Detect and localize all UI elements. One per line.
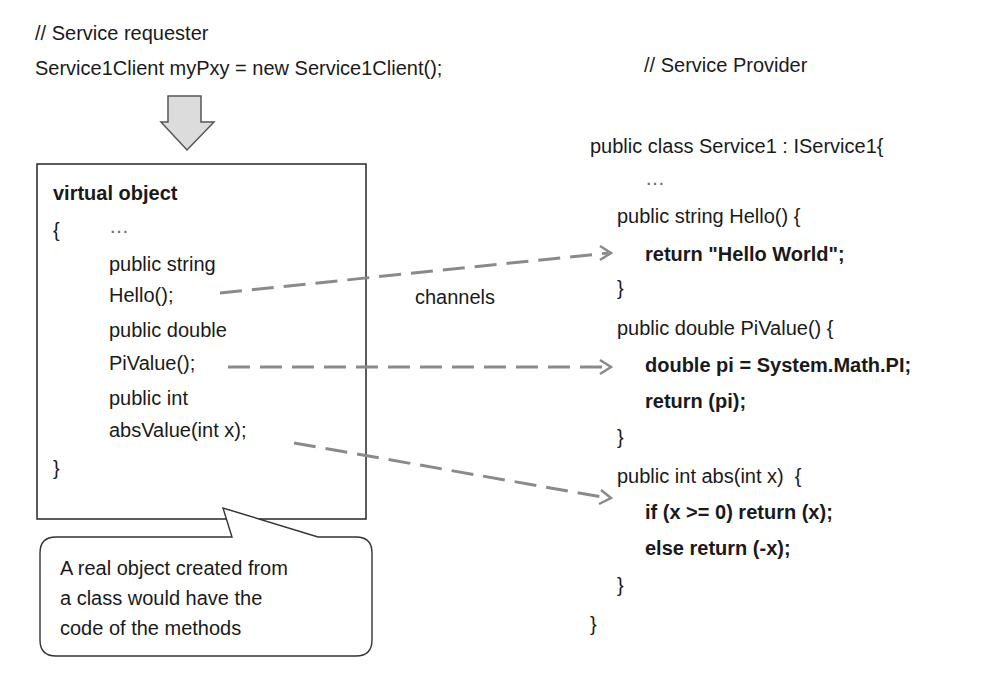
- virtual-object-open-brace: {: [53, 218, 60, 242]
- virtual-method-line: absValue(int x);: [109, 418, 246, 442]
- pivalue-method-body: return (pi);: [645, 389, 746, 413]
- callout-line: code of the methods: [60, 613, 360, 643]
- hello-method-signature: public string Hello() {: [617, 204, 800, 228]
- absvalue-arrowhead-icon: [599, 490, 611, 504]
- callout-line: a class would have the: [60, 583, 360, 613]
- hello-method-body: return "Hello World";: [645, 242, 845, 266]
- virtual-method-line: PiValue();: [109, 351, 195, 375]
- pivalue-method-close: }: [617, 425, 624, 449]
- abs-method-close: }: [617, 573, 624, 597]
- provider-class-declaration: public class Service1 : IService1{: [590, 134, 883, 158]
- virtual-object-ellipsis: …: [109, 214, 129, 238]
- abs-method-body: else return (-x);: [645, 536, 791, 560]
- virtual-method-line: public string: [109, 252, 216, 276]
- provider-comment: // Service Provider: [644, 53, 807, 77]
- virtual-method-line: public double: [109, 318, 227, 342]
- down-arrow-icon: [161, 96, 214, 150]
- pivalue-method-signature: public double PiValue() {: [617, 316, 833, 340]
- provider-ellipsis: …: [645, 166, 665, 190]
- hello-channel-arrow: [220, 253, 608, 293]
- callout-line: A real object created from: [60, 553, 360, 583]
- requester-statement: Service1Client myPxy = new Service1Clien…: [35, 56, 442, 80]
- abs-method-signature: public int abs(int x) {: [617, 464, 802, 488]
- channels-label: channels: [415, 285, 495, 309]
- provider-class-close: }: [590, 612, 597, 636]
- requester-comment: // Service requester: [35, 21, 208, 45]
- callout-text: A real object created from a class would…: [60, 553, 360, 643]
- pivalue-method-body: double pi = System.Math.PI;: [645, 353, 911, 377]
- virtual-object-close-brace: }: [53, 456, 60, 480]
- virtual-method-line: Hello();: [109, 283, 173, 307]
- virtual-method-line: public int: [109, 386, 188, 410]
- hello-method-close: }: [617, 276, 624, 300]
- abs-method-body: if (x >= 0) return (x);: [645, 500, 833, 524]
- absvalue-channel-arrow: [294, 443, 608, 498]
- virtual-object-title: virtual object: [53, 181, 177, 205]
